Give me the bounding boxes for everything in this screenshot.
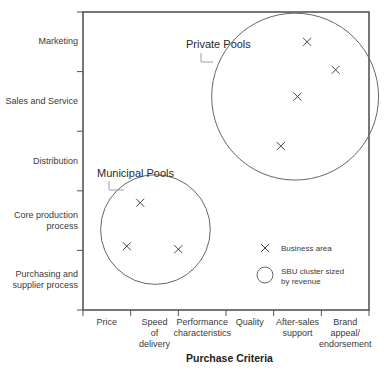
x-axis-label: Brandappeal/endorsement (315, 317, 375, 350)
x-axis-title: Purchase Criteria (186, 352, 273, 364)
y-axis-label-line: Sales and Service (5, 96, 78, 107)
y-axis-label: Sales and Service (5, 96, 78, 107)
legend-sbu-cluster-icon (257, 267, 273, 283)
y-axis-label-line: Distribution (33, 156, 78, 167)
y-axis-label-line: supplier process (12, 280, 78, 291)
y-axis-label-line: Core production (14, 210, 78, 221)
x-axis-label-line: Brand (315, 317, 375, 328)
y-axis-label: Purchasing andsupplier process (12, 269, 78, 291)
x-axis-label-line: endorsement (315, 339, 375, 350)
y-axis-label: Distribution (33, 156, 78, 167)
y-axis-label-line: Purchasing and (12, 269, 78, 280)
legend-business-area-label: Business area (281, 244, 332, 254)
y-axis-label: Core productionprocess (14, 210, 78, 232)
cluster-circle-municipal-pools (101, 175, 211, 285)
y-axis-label-line: process (14, 221, 78, 232)
plot-frame (83, 12, 369, 310)
legend-sbu-cluster-label: SBU cluster sized by revenue (281, 267, 344, 287)
cluster-label-private-pools: Private Pools (186, 38, 251, 50)
x-axis-label-line: appeal/ (315, 328, 375, 339)
legend-sbu-line-1: SBU cluster sized (281, 267, 344, 277)
legend-sbu-line-2: by revenue (281, 277, 344, 287)
x-axis-label-line: delivery (125, 339, 185, 350)
cluster-label-municipal-pools: Municipal Pools (97, 167, 174, 179)
y-axis-label: Marketing (38, 36, 78, 47)
y-axis-label-line: Marketing (38, 36, 78, 47)
x-axis-label-line: characteristics (172, 328, 232, 339)
private-pools-leader-line (201, 53, 213, 62)
municipal-pools-leader-line (109, 181, 124, 190)
